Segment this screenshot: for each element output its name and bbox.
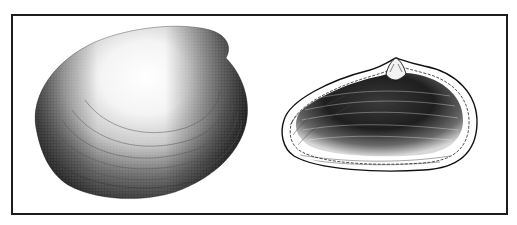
shell-exterior-view	[30, 20, 255, 205]
shell-interior-view	[282, 58, 477, 171]
shell-illustration	[0, 0, 517, 225]
